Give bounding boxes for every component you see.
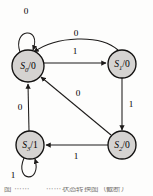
- state-label-s2: S2/0: [114, 139, 130, 151]
- edge-s3-to-s3: [22, 158, 36, 177]
- figure-caption: 图 ⋯⋯ ⋯⋯状态转换图（截断）: [0, 187, 153, 196]
- edge-label-s3-s3: 1: [11, 170, 16, 180]
- edge-label-s1-s0: 0: [74, 28, 79, 38]
- edge-label-s1-s2: 1: [129, 99, 134, 109]
- edge-s3-to-s0: [28, 84, 29, 131]
- state-transition-diagram-figure: S0/0 S1/0 S2/0 S3/1 0 1 0 1 0 1 0 1 图 ⋯⋯…: [0, 0, 153, 196]
- caption-text: ⋯⋯状态转换图（截断）: [46, 187, 128, 193]
- caption-figure-number: 图 ⋯⋯: [4, 187, 30, 193]
- edge-label-s0-s1: 1: [73, 46, 78, 56]
- edge-s2-to-s0: [41, 77, 111, 135]
- edge-label-s2-s0: 0: [76, 88, 81, 98]
- edge-label-s0-s0: 0: [24, 6, 29, 16]
- state-label-s1: S1/0: [114, 58, 130, 70]
- edge-s0-to-s0: [19, 33, 35, 52]
- state-label-s3: S3/1: [22, 139, 38, 151]
- edge-label-s2-s3: 1: [74, 151, 79, 161]
- edge-label-s3-s0: 0: [18, 102, 23, 112]
- state-label-s0: S0/0: [20, 60, 36, 72]
- fsm-canvas: S0/0 S1/0 S2/0 S3/1 0 1 0 1 0 1 0 1: [0, 0, 153, 196]
